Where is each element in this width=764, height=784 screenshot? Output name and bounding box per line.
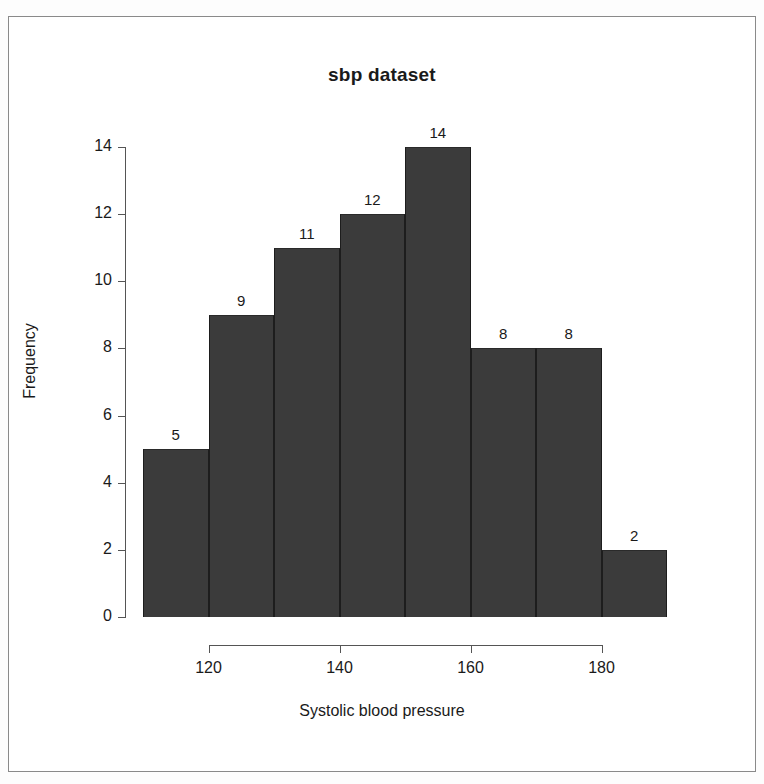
x-axis-line <box>209 645 602 646</box>
x-axis-tick-label: 180 <box>562 659 642 677</box>
y-axis-tick <box>118 147 126 148</box>
histogram-plot: sbp dataset 02468101214 Frequency 591112… <box>0 0 764 784</box>
scanned-page: sbp dataset 02468101214 Frequency 591112… <box>0 0 764 784</box>
bar-value-label: 12 <box>342 191 402 208</box>
y-axis-tick-label: 2 <box>72 540 112 558</box>
y-axis-tick <box>118 214 126 215</box>
y-axis-tick <box>118 416 126 417</box>
x-axis-tick-label: 160 <box>431 659 511 677</box>
bar-value-label: 5 <box>146 426 206 443</box>
x-axis-tick <box>340 645 341 653</box>
page-title: sbp dataset <box>0 64 764 86</box>
y-axis-tick <box>118 617 126 618</box>
x-axis-tick <box>602 645 603 653</box>
histogram-bar <box>340 214 406 617</box>
y-axis-tick-label: 12 <box>72 204 112 222</box>
bar-value-label: 11 <box>277 225 337 242</box>
histogram-bar <box>143 449 209 617</box>
x-axis-tick <box>471 645 472 653</box>
y-axis-tick-label: 14 <box>72 137 112 155</box>
x-axis-tick-label: 120 <box>169 659 249 677</box>
histogram-bar <box>602 550 668 617</box>
x-axis-label: Systolic blood pressure <box>0 702 764 720</box>
y-axis-tick <box>118 483 126 484</box>
y-axis-tick <box>118 281 126 282</box>
x-axis-tick-label: 140 <box>300 659 380 677</box>
bar-value-label: 14 <box>408 124 468 141</box>
y-axis-tick-label: 0 <box>72 607 112 625</box>
bar-value-label: 9 <box>211 292 271 309</box>
y-axis-tick-labels: 02468101214 <box>66 0 112 784</box>
x-axis-tick <box>209 645 210 653</box>
bar-value-label: 8 <box>473 325 533 342</box>
y-axis-tick-label: 8 <box>72 338 112 356</box>
y-axis-tick-label: 4 <box>72 473 112 491</box>
plot-area: 59111214882 <box>143 147 667 617</box>
y-axis-line <box>125 147 126 617</box>
bar-value-label: 2 <box>604 527 664 544</box>
y-axis-tick-label: 10 <box>72 271 112 289</box>
y-axis-tick-label: 6 <box>72 406 112 424</box>
y-axis-tick <box>118 550 126 551</box>
y-axis-tick <box>118 348 126 349</box>
histogram-bar <box>274 248 340 617</box>
histogram-bar <box>471 348 537 617</box>
bar-value-label: 8 <box>539 325 599 342</box>
histogram-bar <box>209 315 275 617</box>
histogram-bar <box>536 348 602 617</box>
histogram-bar <box>405 147 471 617</box>
y-axis-label: Frequency <box>21 301 39 421</box>
